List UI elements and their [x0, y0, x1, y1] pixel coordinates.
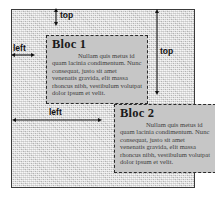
- bloc-1: Bloc 1 Nullam quis metus id quam lacinia…: [46, 35, 148, 104]
- top-offset-label-bloc-1: top: [60, 11, 73, 20]
- bloc-2-body-text: Nullam quis metus id quam lacinia condim…: [120, 121, 211, 165]
- left-offset-arrow-bloc-1: [11, 53, 35, 57]
- left-offset-label-bloc-1: left: [13, 44, 26, 53]
- page-container: Bloc 1 Nullam quis metus id quam lacinia…: [11, 9, 195, 188]
- bloc-1-body-text: Nullam quis metus id quam lacinia condim…: [52, 52, 143, 96]
- bloc-2: Bloc 2 Nullam quis metus id quam lacinia…: [114, 104, 215, 173]
- left-offset-arrow-bloc-2: [12, 118, 102, 122]
- top-offset-arrow-bloc-1: [54, 8, 58, 26]
- left-offset-label-bloc-2: left: [49, 108, 62, 117]
- top-offset-label-bloc-2: top: [160, 47, 173, 56]
- bloc-2-title: Bloc 2: [120, 107, 211, 120]
- top-offset-arrow-bloc-2: [155, 9, 159, 95]
- bloc-1-title: Bloc 1: [52, 38, 143, 51]
- positioning-diagram: Bloc 1 Nullam quis metus id quam lacinia…: [0, 0, 215, 200]
